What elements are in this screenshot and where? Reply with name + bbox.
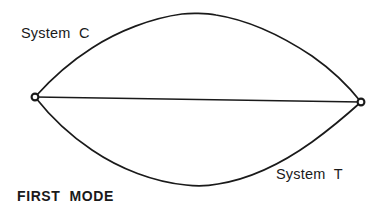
figure-caption-first-mode: FIRST MODE: [17, 189, 114, 203]
label-system-t: System T: [276, 167, 343, 182]
mode-shape-figure: System C System T FIRST MODE: [0, 0, 390, 214]
label-system-c: System C: [21, 26, 90, 41]
right-node-marker: [358, 99, 365, 106]
left-node-marker: [32, 94, 39, 101]
